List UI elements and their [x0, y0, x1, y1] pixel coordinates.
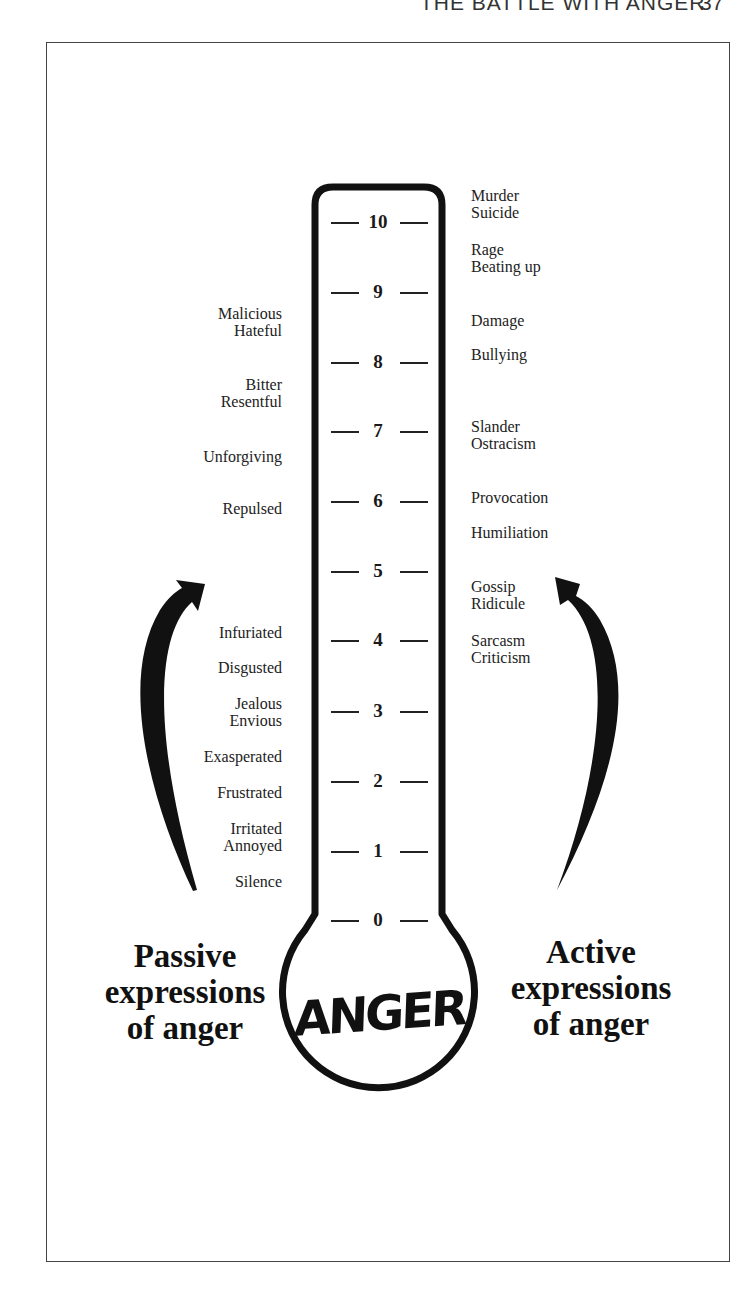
active-item: Bullying: [471, 346, 527, 363]
passive-item: IrritatedAnnoyed: [223, 820, 282, 854]
active-item: RageBeating up: [471, 241, 541, 275]
scale-value: 8: [348, 352, 408, 372]
passive-item: MaliciousHateful: [218, 305, 282, 339]
active-caption: Activeexpressionsof anger: [486, 934, 696, 1042]
active-item: GossipRidicule: [471, 578, 525, 612]
active-item: SlanderOstracism: [471, 418, 536, 452]
passive-item: BitterResentful: [221, 376, 282, 410]
scale-value: 7: [348, 421, 408, 441]
passive-item: Silence: [235, 873, 282, 890]
scale-value: 1: [348, 841, 408, 861]
active-item: SarcasmCriticism: [471, 632, 531, 666]
active-item: Damage: [471, 312, 524, 329]
passive-item: Unforgiving: [203, 448, 282, 465]
passive-item: Infuriated: [219, 624, 282, 641]
active-item: MurderSuicide: [471, 187, 519, 221]
active-item: Humiliation: [471, 524, 548, 541]
passive-item: Frustrated: [217, 784, 282, 801]
scale-value: 6: [348, 491, 408, 511]
passive-item: Repulsed: [222, 500, 282, 517]
active-item: Provocation: [471, 489, 548, 506]
scale-value: 3: [348, 701, 408, 721]
scale-value: 4: [348, 630, 408, 650]
passive-caption: Passiveexpressionsof anger: [80, 938, 290, 1046]
scale-value: 10: [348, 212, 408, 232]
active-arrow-icon: [555, 577, 618, 890]
scale-value: 0: [348, 910, 408, 930]
passive-item: Exasperated: [204, 748, 282, 765]
scale-value: 2: [348, 771, 408, 791]
scale-value: 5: [348, 561, 408, 581]
passive-item: JealousEnvious: [230, 695, 282, 729]
scale-value: 9: [348, 282, 408, 302]
passive-item: Disgusted: [218, 659, 282, 676]
passive-arrow-icon: [140, 580, 205, 891]
